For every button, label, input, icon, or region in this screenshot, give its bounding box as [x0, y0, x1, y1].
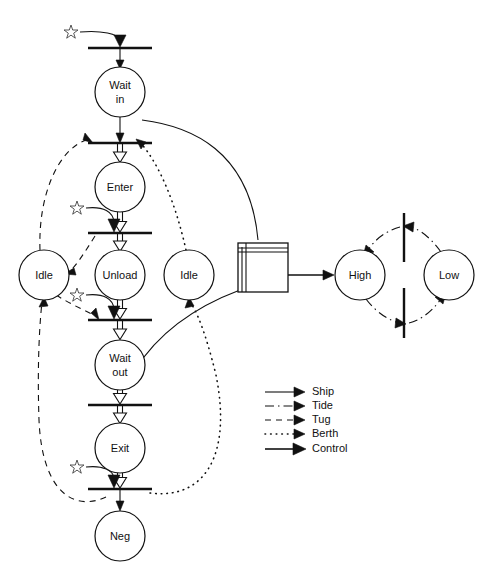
place-tide-low-label: Low: [439, 269, 459, 281]
legend-item-berth: Berth: [265, 427, 338, 439]
arrowhead-waitout: [114, 329, 127, 340]
arrowhead-tarrive-control: [114, 35, 126, 47]
arrowhead-texit: [114, 394, 127, 405]
controller-box[interactable]: [238, 243, 288, 292]
legend-arrowhead-tide: [294, 401, 305, 411]
place-neg-label: Neg: [110, 530, 130, 542]
arrowhead-tdepart-tug: [91, 308, 99, 320]
place-wait-in-label-line2: in: [116, 93, 125, 105]
place-unload-label: Unload: [103, 269, 138, 281]
petri-net-diagram: Wait in Enter Unload Wait out Exit: [0, 0, 485, 585]
legend-arrowhead-tug: [294, 415, 305, 425]
legend-item-tug: Tug: [265, 413, 331, 425]
place-enter[interactable]: Enter: [95, 162, 145, 212]
star-icon-unload: [70, 201, 84, 214]
place-tide-high-label: High: [349, 269, 372, 281]
legend-label-control: Control: [312, 442, 347, 454]
arrowhead-tenter-tug: [83, 133, 93, 143]
legend-item-control: Control: [265, 442, 347, 455]
place-tug-idle[interactable]: Idle: [19, 250, 69, 300]
berth-flow-group: [136, 139, 221, 494]
arc-tugidle-to-tenter: [40, 140, 86, 250]
place-neg[interactable]: Neg: [95, 511, 145, 561]
place-wait-in-label-line1: Wait: [109, 79, 131, 91]
arc-low-to-ttideup: [410, 227, 441, 252]
legend-arrowhead-berth: [294, 429, 305, 439]
legend: Ship Tide Tug Berth: [265, 385, 347, 455]
arc-high-to-ttidedown: [366, 299, 399, 323]
control-flow-group: [127, 120, 334, 378]
place-tug-idle-label: Idle: [35, 269, 53, 281]
arrowhead-enter: [114, 152, 127, 163]
arc-ttidedown-to-low: [409, 299, 441, 323]
star-icon-arrive: [64, 25, 78, 38]
legend-arrowhead-control: [293, 443, 306, 455]
arc-tunload-to-tugidle: [70, 236, 95, 271]
legend-label-tug: Tug: [312, 413, 331, 425]
diagram-canvas: Wait in Enter Unload Wait out Exit: [0, 0, 485, 585]
place-berth-idle[interactable]: Idle: [164, 250, 214, 300]
arc-star-arrive: [80, 31, 120, 40]
arc-trelease-to-berthidle: [150, 302, 221, 494]
legend-item-tide: Tide: [265, 399, 333, 411]
arrowhead-neg: [116, 501, 124, 511]
legend-item-ship: Ship: [265, 385, 334, 397]
place-unload[interactable]: Unload: [95, 250, 145, 300]
arc-waitin-to-controller: [142, 120, 258, 240]
place-wait-in[interactable]: Wait in: [95, 67, 145, 117]
place-tide-high[interactable]: High: [335, 250, 385, 300]
arc-ttideup-to-high: [368, 227, 400, 250]
place-exit[interactable]: Exit: [95, 423, 145, 473]
place-wait-out[interactable]: Wait out: [95, 340, 145, 390]
arrowhead-tenter-ship: [116, 133, 124, 143]
place-tide-low[interactable]: Low: [424, 250, 474, 300]
legend-label-tide: Tide: [312, 399, 333, 411]
place-wait-out-label-line1: Wait: [109, 352, 131, 364]
star-icon-release: [70, 460, 84, 473]
arrowhead-high: [323, 270, 334, 280]
legend-label-berth: Berth: [312, 427, 338, 439]
arc-trelease-to-tugidle: [38, 302, 106, 502]
legend-arrowhead-ship: [294, 387, 305, 397]
place-wait-out-label-line2: out: [112, 366, 127, 378]
star-icon-depart: [70, 288, 84, 301]
place-exit-label: Exit: [111, 442, 129, 454]
legend-label-ship: Ship: [312, 385, 334, 397]
place-enter-label: Enter: [107, 181, 134, 193]
place-berth-idle-label: Idle: [180, 269, 198, 281]
arrowhead-exit: [114, 413, 127, 424]
